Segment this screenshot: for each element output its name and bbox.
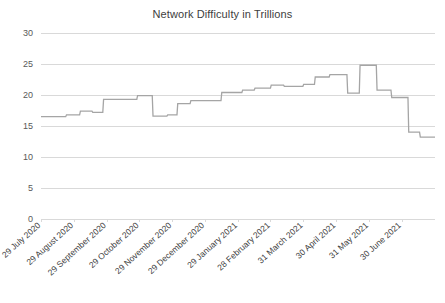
chart-container: Network Difficulty in Trillions 05101520… <box>0 0 445 303</box>
gridlines-group <box>41 34 435 220</box>
y-tick-label: 30 <box>23 28 33 38</box>
y-tick-label: 10 <box>23 152 33 162</box>
y-tick-label: 15 <box>23 121 33 131</box>
y-tick-label: 25 <box>23 59 33 69</box>
chart-plot-area: 051015202530 29 July 202029 August 20202… <box>0 0 445 303</box>
x-axis-tick-labels: 29 July 202029 August 202029 September 2… <box>0 219 403 277</box>
y-tick-label: 5 <box>28 183 33 193</box>
x-tick-label: 29 September 2020 <box>46 220 108 278</box>
x-tick-label: 29 December 2020 <box>146 220 207 276</box>
y-tick-label: 20 <box>23 90 33 100</box>
y-axis-tick-labels: 051015202530 <box>23 28 33 224</box>
x-tick-label: 29 November 2020 <box>113 220 174 276</box>
